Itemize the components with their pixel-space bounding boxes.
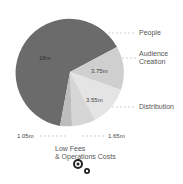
value-105: 1.05m [17, 133, 34, 139]
label-distribution: Distribution [139, 103, 174, 111]
label-fees-1: Low Fees [55, 145, 85, 153]
value-165: 1.65m [108, 133, 125, 139]
label-audience-2: Creation [139, 58, 165, 66]
value-distribution: 3.55m [86, 97, 103, 103]
label-people: People [139, 29, 161, 37]
label-audience-1: Audience [139, 50, 168, 58]
gear-icon [73, 159, 90, 174]
value-people: 18m [39, 55, 51, 61]
value-audience: 3.75m [91, 68, 108, 74]
label-fees-2: & Operations Costs [55, 153, 116, 161]
